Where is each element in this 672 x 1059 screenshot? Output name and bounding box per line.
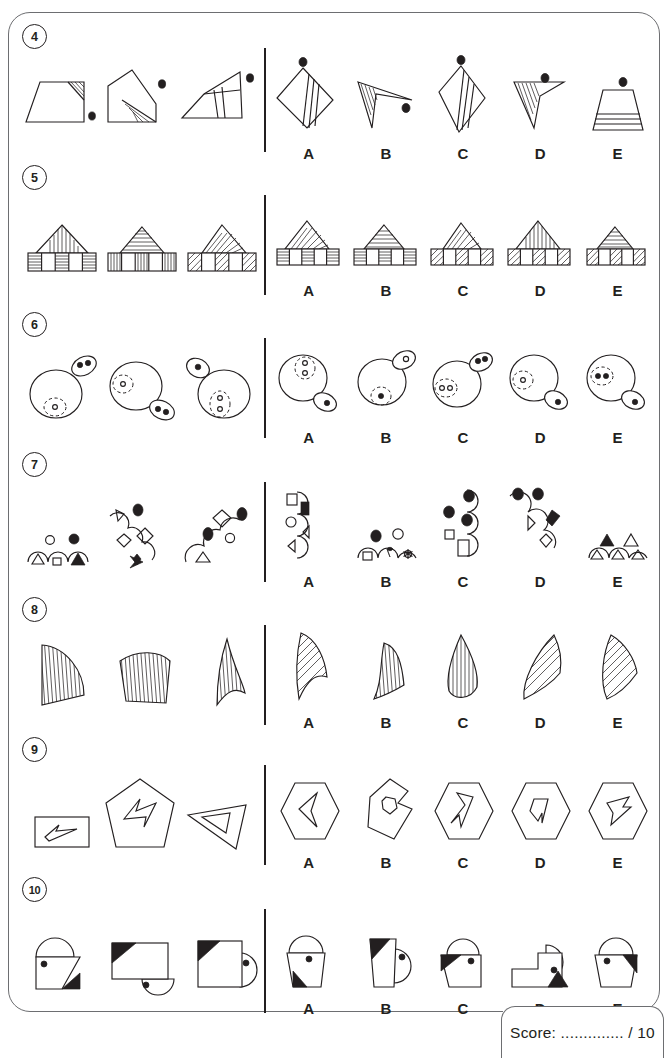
option-A[interactable]: A (270, 765, 347, 871)
question-number-10: 10 (22, 877, 47, 902)
stem-shape (102, 771, 182, 855)
question-9-stems (22, 769, 262, 855)
option-label: D (535, 145, 546, 162)
question-number-6: 6 (22, 312, 47, 337)
question-4-options: A B (270, 52, 656, 162)
option-C[interactable]: C (424, 482, 501, 590)
stem-shape (182, 203, 262, 281)
option-A[interactable]: A (270, 482, 347, 590)
option-D[interactable]: D (502, 338, 579, 446)
stem-shape (98, 60, 178, 140)
option-C[interactable]: C (424, 338, 501, 446)
option-label: C (458, 714, 469, 731)
question-number-5: 5 (22, 165, 47, 190)
question-7-options: A B (270, 486, 656, 590)
stem-shape (22, 631, 100, 715)
option-A[interactable]: A (270, 52, 347, 162)
option-E[interactable]: E (579, 765, 656, 871)
option-D[interactable]: D (502, 625, 579, 731)
option-E[interactable]: E (579, 625, 656, 731)
option-D[interactable]: D (502, 765, 579, 871)
option-label: C (458, 145, 469, 162)
question-row-7: 7 (8, 452, 660, 597)
question-row-5: 5 (8, 165, 660, 305)
stem-shape (182, 344, 262, 428)
question-number-9: 9 (22, 737, 47, 762)
stem-shape (22, 915, 102, 997)
question-divider (264, 482, 266, 582)
option-A[interactable]: A (270, 201, 347, 299)
option-label: C (458, 429, 469, 446)
stem-shape (182, 490, 262, 572)
option-label: D (535, 282, 546, 299)
option-B[interactable]: B (347, 201, 424, 299)
question-divider (264, 338, 266, 438)
option-B[interactable]: B (347, 482, 424, 590)
option-label: B (380, 573, 391, 590)
option-A[interactable]: A (270, 625, 347, 731)
question-number-8: 8 (22, 597, 47, 622)
option-label: A (303, 714, 314, 731)
question-row-4: 4 (8, 24, 660, 164)
option-label: C (458, 854, 469, 871)
option-A[interactable]: A (270, 338, 347, 446)
question-7-stems (22, 486, 262, 572)
score-box: Score: .............. / 10 (501, 1006, 664, 1058)
stem-shape (182, 771, 262, 855)
option-label: B (380, 145, 391, 162)
question-6-stems (22, 342, 262, 428)
option-C[interactable]: C (424, 625, 501, 731)
option-C[interactable]: C (424, 201, 501, 299)
question-8-options: A B (270, 629, 656, 731)
option-label: A (303, 1000, 314, 1017)
option-label: E (612, 429, 622, 446)
option-B[interactable]: B (347, 338, 424, 446)
stem-shape (22, 490, 102, 572)
option-C[interactable]: C (424, 52, 501, 162)
question-row-8: 8 (8, 597, 660, 737)
stem-shape (102, 915, 188, 997)
option-E[interactable]: E (579, 913, 656, 1017)
option-label: B (380, 282, 391, 299)
stem-shape (178, 60, 262, 140)
question-row-6: 6 (8, 312, 660, 452)
stem-shape (22, 203, 102, 281)
option-D[interactable]: D (502, 201, 579, 299)
option-B[interactable]: B (347, 765, 424, 871)
question-divider (264, 765, 266, 865)
stem-shape (102, 490, 182, 572)
option-A[interactable]: A (270, 913, 347, 1017)
option-E[interactable]: E (579, 482, 656, 590)
option-B[interactable]: B (347, 625, 424, 731)
option-B[interactable]: B (347, 52, 424, 162)
stem-shape (102, 344, 182, 428)
option-label: D (535, 714, 546, 731)
question-row-9: 9 (8, 737, 660, 877)
option-D[interactable]: D (502, 913, 579, 1017)
question-10-options: A B C (270, 913, 656, 1017)
question-8-stems (22, 629, 262, 715)
option-label: A (303, 145, 314, 162)
stem-shape (186, 631, 262, 715)
question-number-7: 7 (22, 452, 47, 477)
option-label: A (303, 854, 314, 871)
option-label: B (380, 429, 391, 446)
question-row-10: 10 (8, 877, 660, 1017)
option-E[interactable]: E (579, 338, 656, 446)
stem-shape (22, 60, 98, 140)
option-B[interactable]: B (347, 913, 424, 1017)
option-label: D (535, 429, 546, 446)
option-E[interactable]: E (579, 201, 656, 299)
stem-shape (100, 631, 186, 715)
score-text: Score: .............. / 10 (510, 1024, 655, 1042)
option-C[interactable]: C (424, 765, 501, 871)
option-D[interactable]: D (502, 482, 579, 590)
option-label: B (380, 1000, 391, 1017)
stem-shape (102, 203, 182, 281)
option-label: A (303, 573, 314, 590)
option-E[interactable]: E (579, 52, 656, 162)
option-D[interactable]: D (502, 52, 579, 162)
option-label: B (380, 714, 391, 731)
option-C[interactable]: C (424, 913, 501, 1017)
option-label: A (303, 429, 314, 446)
